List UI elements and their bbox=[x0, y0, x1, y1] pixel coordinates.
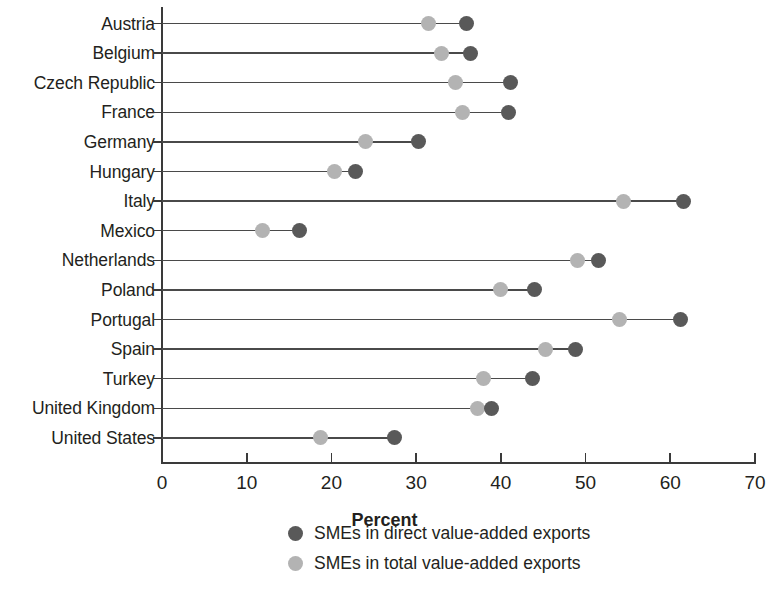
x-axis-tick bbox=[331, 453, 333, 463]
row-connector-line bbox=[162, 289, 535, 291]
y-axis-category-label: Germany bbox=[84, 134, 155, 152]
data-point-direct-value-added bbox=[525, 371, 540, 386]
row-connector-line bbox=[162, 52, 470, 54]
data-point-total-value-added bbox=[476, 371, 491, 386]
x-axis-tick bbox=[246, 453, 248, 463]
data-point-direct-value-added bbox=[463, 46, 478, 61]
x-axis-tick-label: 0 bbox=[122, 473, 202, 492]
y-axis-category-label: Italy bbox=[123, 193, 155, 211]
x-axis-tick-label: 50 bbox=[546, 473, 626, 492]
y-axis-tick bbox=[153, 437, 162, 439]
legend-item-label: SMEs in direct value-added exports bbox=[314, 525, 590, 543]
row-connector-line bbox=[162, 348, 575, 350]
data-point-direct-value-added bbox=[527, 282, 542, 297]
x-axis-tick-label: 60 bbox=[630, 473, 710, 492]
row-connector-line bbox=[162, 141, 419, 143]
row-connector-line bbox=[162, 319, 680, 321]
y-axis-category-label: United States bbox=[51, 430, 155, 448]
y-axis-category-label: Austria bbox=[101, 16, 155, 34]
x-axis-tick-label: 30 bbox=[376, 473, 456, 492]
x-axis-line bbox=[161, 462, 756, 464]
data-point-total-value-added bbox=[455, 105, 470, 120]
data-point-total-value-added bbox=[434, 46, 449, 61]
x-axis-tick bbox=[415, 453, 417, 463]
x-axis-tick bbox=[500, 453, 502, 463]
y-axis-tick bbox=[153, 378, 162, 380]
y-axis-tick bbox=[153, 171, 162, 173]
y-axis-tick bbox=[153, 289, 162, 291]
x-axis-tick-label: 10 bbox=[207, 473, 287, 492]
legend-item: SMEs in total value-added exports bbox=[288, 555, 581, 573]
y-axis-tick bbox=[153, 230, 162, 232]
y-axis-tick bbox=[153, 408, 162, 410]
x-axis-tick bbox=[161, 453, 163, 463]
y-axis-category-label: Spain bbox=[111, 341, 155, 359]
y-axis-category-label: United Kingdom bbox=[32, 400, 155, 418]
x-axis-tick bbox=[585, 453, 587, 463]
row-connector-line bbox=[162, 230, 299, 232]
y-axis-category-label: France bbox=[101, 104, 155, 122]
data-point-total-value-added bbox=[612, 312, 627, 327]
data-point-direct-value-added bbox=[591, 253, 606, 268]
row-connector-line bbox=[162, 437, 394, 439]
y-axis-tick bbox=[153, 141, 162, 143]
x-axis-tick bbox=[754, 453, 756, 463]
data-point-direct-value-added bbox=[568, 342, 583, 357]
y-axis-tick bbox=[153, 23, 162, 25]
plot-area: 010203040506070PercentAustriaBelgiumCzec… bbox=[0, 0, 772, 470]
dark-circle-icon bbox=[288, 526, 303, 541]
x-axis-tick-label: 70 bbox=[715, 473, 772, 492]
data-point-direct-value-added bbox=[348, 164, 363, 179]
data-point-total-value-added bbox=[448, 75, 463, 90]
y-axis-tick bbox=[153, 82, 162, 84]
data-point-total-value-added bbox=[327, 164, 342, 179]
y-axis-category-label: Belgium bbox=[92, 45, 155, 63]
y-axis-tick bbox=[153, 52, 162, 54]
data-point-total-value-added bbox=[616, 194, 631, 209]
data-point-total-value-added bbox=[255, 223, 270, 238]
legend-item: SMEs in direct value-added exports bbox=[288, 525, 590, 543]
y-axis-tick bbox=[153, 319, 162, 321]
data-point-direct-value-added bbox=[292, 223, 307, 238]
y-axis-tick bbox=[153, 200, 162, 202]
y-axis-category-label: Hungary bbox=[90, 164, 155, 182]
data-point-direct-value-added bbox=[501, 105, 516, 120]
data-point-total-value-added bbox=[538, 342, 553, 357]
y-axis-tick bbox=[153, 260, 162, 262]
x-axis-tick-label: 40 bbox=[461, 473, 541, 492]
light-circle-icon bbox=[288, 556, 303, 571]
data-point-total-value-added bbox=[421, 16, 436, 31]
x-axis-tick-label: 20 bbox=[291, 473, 371, 492]
data-point-direct-value-added bbox=[459, 16, 474, 31]
row-connector-line bbox=[162, 200, 684, 202]
data-point-direct-value-added bbox=[411, 134, 426, 149]
dumbbell-chart: 010203040506070PercentAustriaBelgiumCzec… bbox=[0, 0, 772, 599]
data-point-direct-value-added bbox=[503, 75, 518, 90]
y-axis-category-label: Mexico bbox=[100, 223, 155, 241]
row-connector-line bbox=[162, 408, 492, 410]
y-axis-tick bbox=[153, 112, 162, 114]
y-axis-category-label: Poland bbox=[101, 282, 155, 300]
row-connector-line bbox=[162, 260, 598, 262]
data-point-direct-value-added bbox=[387, 430, 402, 445]
data-point-total-value-added bbox=[570, 253, 585, 268]
data-point-total-value-added bbox=[313, 430, 328, 445]
y-axis-tick bbox=[153, 348, 162, 350]
data-point-direct-value-added bbox=[484, 401, 499, 416]
legend-item-label: SMEs in total value-added exports bbox=[314, 555, 581, 573]
y-axis-category-label: Netherlands bbox=[62, 252, 155, 270]
y-axis-category-label: Czech Republic bbox=[34, 75, 155, 93]
data-point-total-value-added bbox=[493, 282, 508, 297]
data-point-total-value-added bbox=[358, 134, 373, 149]
data-point-direct-value-added bbox=[673, 312, 688, 327]
data-point-direct-value-added bbox=[676, 194, 691, 209]
y-axis-category-label: Portugal bbox=[91, 312, 155, 330]
x-axis-tick bbox=[669, 453, 671, 463]
y-axis-category-label: Turkey bbox=[103, 371, 155, 389]
y-axis-line bbox=[161, 7, 163, 462]
